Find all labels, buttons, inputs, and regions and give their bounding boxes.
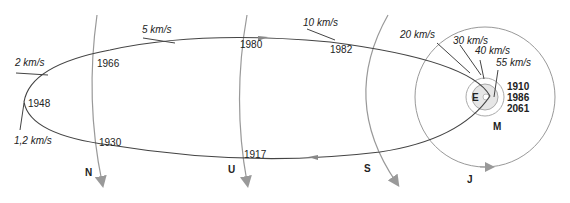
speed-label: 2 km/s — [14, 57, 44, 68]
year-label: 1982 — [330, 44, 353, 55]
saturn-orbit — [366, 15, 396, 182]
comet-orbit — [24, 38, 490, 159]
planet-label-earth: E — [472, 92, 479, 103]
comet-orbit-diagram: 2 km/s 5 km/s 10 km/s 20 km/s 30 km/s 40… — [0, 0, 570, 203]
planet-label-uranus: U — [228, 164, 235, 175]
year-label: 1980 — [240, 39, 263, 50]
year-label: 1917 — [244, 149, 267, 160]
speed-label: 5 km/s — [142, 24, 171, 35]
year-label: 1966 — [97, 58, 120, 69]
speed-label: 10 km/s — [303, 17, 338, 28]
perihelion-year: 1986 — [507, 92, 530, 103]
planet-label-saturn: S — [364, 163, 371, 174]
perihelion-year: 2061 — [507, 103, 530, 114]
year-label: 1930 — [99, 137, 122, 148]
speed-label: 1,2 km/s — [14, 135, 52, 146]
planet-label-neptune: N — [85, 167, 92, 178]
neptune-orbit — [92, 15, 102, 182]
year-label: 1948 — [28, 98, 51, 109]
planet-label-jupiter: J — [467, 174, 473, 185]
speed-label: 20 km/s — [399, 29, 435, 40]
speed-label: 40 km/s — [475, 45, 510, 56]
speed-label: 55 km/s — [496, 57, 531, 68]
planet-label-mars: M — [493, 121, 501, 132]
perihelion-year: 1910 — [507, 81, 530, 92]
